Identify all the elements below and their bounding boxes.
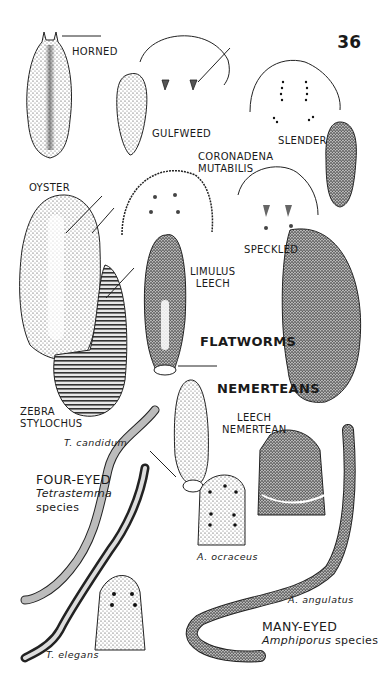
- label-horned: HORNED: [72, 46, 118, 58]
- label-limulus-leech-line2: LEECH: [190, 278, 230, 290]
- page-number: 36: [337, 32, 361, 52]
- label-t-elegans: T. elegans: [46, 649, 99, 661]
- label-leech-nemertean-line1: LEECH: [222, 412, 286, 424]
- label-four-eyed-species: species: [36, 501, 112, 515]
- label-leech-nemertean-line2: NEMERTEAN: [222, 424, 286, 436]
- label-speckled: SPECKLED: [244, 244, 298, 256]
- label-gulfweed: GULFWEED: [152, 128, 211, 140]
- label-many-eyed-suffix: species: [335, 634, 378, 647]
- slender-flatworm-illustration: [250, 60, 356, 207]
- label-many-eyed-scientific: Amphiporus species: [262, 634, 378, 648]
- label-slender: SLENDER: [278, 135, 327, 147]
- label-zebra-stylochus: ZEBRA STYLOCHUS: [20, 406, 83, 430]
- leech-nemertean-illustration: [150, 380, 208, 492]
- label-limulus-leech: LIMULUS LEECH: [190, 266, 230, 290]
- heading-nemerteans: NEMERTEANS: [217, 383, 320, 395]
- heading-flatworms: FLATWORMS: [200, 336, 296, 348]
- label-many-eyed: MANY-EYED Amphiporus species: [262, 620, 378, 648]
- label-many-eyed-genus: Amphiporus: [262, 634, 331, 647]
- label-zebra-stylochus-line1: ZEBRA: [20, 406, 83, 418]
- label-limulus-leech-line1: LIMULUS: [190, 266, 230, 278]
- label-leech-nemertean: LEECH NEMERTEAN: [222, 412, 286, 436]
- label-coronadena-line2: MUTABILIS: [198, 163, 273, 175]
- label-coronadena-line1: CORONADENA: [198, 151, 273, 163]
- label-four-eyed: FOUR-EYED Tetrastemma species: [36, 473, 112, 515]
- a-angulatus-head-illustration: [258, 430, 325, 515]
- label-four-eyed-name: FOUR-EYED: [36, 473, 112, 487]
- label-four-eyed-genus: Tetrastemma: [36, 487, 112, 501]
- label-a-ocraceus: A. ocraceus: [197, 551, 258, 563]
- label-t-candidum: T. candidum: [64, 437, 127, 449]
- limulus-leech-illustration: [144, 235, 217, 375]
- coronadena-flatworm-illustration: [122, 171, 212, 235]
- label-many-eyed-name: MANY-EYED: [262, 620, 378, 634]
- label-a-angulatus: A. angulatus: [288, 594, 354, 606]
- label-oyster: OYSTER: [29, 182, 70, 194]
- a-ocraceus-head-illustration: [198, 475, 245, 545]
- label-zebra-stylochus-line2: STYLOCHUS: [20, 418, 83, 430]
- label-coronadena: CORONADENA MUTABILIS: [198, 151, 273, 175]
